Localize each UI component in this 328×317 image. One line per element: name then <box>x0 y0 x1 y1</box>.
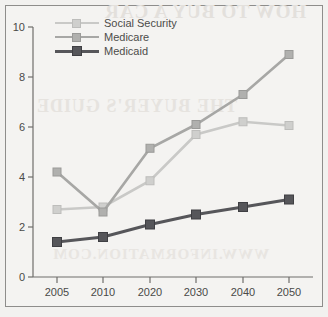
legend-swatch-social-security <box>55 17 99 29</box>
data-point-medicaid-2005 <box>53 238 62 247</box>
x-tick-label-2040: 2040 <box>223 286 263 298</box>
data-point-medicaid-2010 <box>99 233 108 242</box>
y-tick-label-10: 10 <box>3 21 25 33</box>
y-axis-ticks <box>28 27 33 277</box>
data-point-medicare-2020 <box>146 144 154 152</box>
legend-swatch-medicaid <box>55 45 99 57</box>
chart-legend: Social Security Medicare Medicaid <box>55 16 177 58</box>
y-tick-label-6: 6 <box>3 121 25 133</box>
data-point-medicare-2050 <box>285 51 293 59</box>
data-point-social-security-2040 <box>239 118 247 126</box>
x-tick-label-2005: 2005 <box>37 286 77 298</box>
legend-marker-social-security <box>72 19 81 28</box>
x-tick-label-2010: 2010 <box>83 286 123 298</box>
data-point-medicare-2030 <box>192 121 200 129</box>
y-tick-label-8: 8 <box>3 71 25 83</box>
series-medicare <box>53 51 293 217</box>
data-point-social-security-2020 <box>146 177 154 185</box>
y-tick-label-4: 4 <box>3 171 25 183</box>
legend-label-social-security: Social Security <box>104 17 177 29</box>
data-point-social-security-2050 <box>285 122 293 130</box>
series-medicaid <box>53 195 294 247</box>
y-tick-label-0: 0 <box>3 271 25 283</box>
series-line-medicare <box>57 55 289 213</box>
legend-marker-medicare <box>72 33 81 42</box>
x-tick-label-2030: 2030 <box>176 286 216 298</box>
x-tick-label-2050: 2050 <box>269 286 309 298</box>
data-point-medicare-2005 <box>53 168 61 176</box>
x-axis-ticks <box>57 277 289 283</box>
data-point-social-security-2005 <box>53 206 61 214</box>
x-tick-label-2020: 2020 <box>130 286 170 298</box>
legend-item-medicare: Medicare <box>55 30 177 43</box>
data-point-medicaid-2050 <box>285 195 294 204</box>
legend-label-medicaid: Medicaid <box>104 45 148 57</box>
data-point-medicare-2040 <box>239 91 247 99</box>
data-point-medicaid-2030 <box>192 210 201 219</box>
legend-item-medicaid: Medicaid <box>55 44 177 57</box>
data-point-medicaid-2040 <box>239 203 248 212</box>
data-point-medicaid-2020 <box>146 220 155 229</box>
legend-item-social-security: Social Security <box>55 16 177 29</box>
figure-root: HOW TO BUY A CAR THE BUYER'S GUIDE WWW.I… <box>0 0 328 317</box>
series-line-medicaid <box>57 200 289 243</box>
legend-marker-medicaid <box>72 46 82 56</box>
legend-label-medicare: Medicare <box>104 31 149 43</box>
legend-swatch-medicare <box>55 31 99 43</box>
y-tick-label-2: 2 <box>3 221 25 233</box>
data-point-social-security-2030 <box>192 131 200 139</box>
data-point-medicare-2010 <box>99 208 107 216</box>
line-chart: 10 8 6 4 2 0 2005 2010 2020 2030 2040 20… <box>0 0 328 317</box>
